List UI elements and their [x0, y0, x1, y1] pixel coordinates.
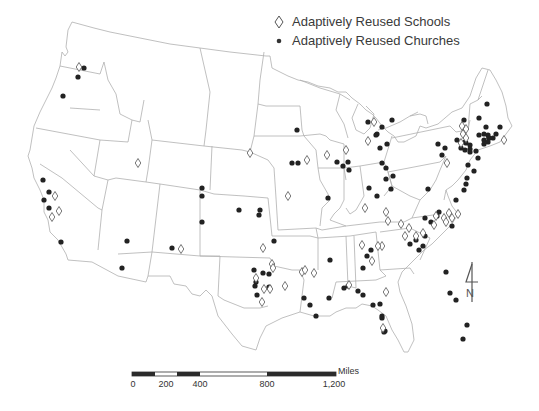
church-marker [379, 160, 384, 165]
church-marker [449, 223, 454, 228]
church-marker [422, 215, 427, 220]
church-marker [41, 197, 46, 202]
church-marker [383, 165, 388, 170]
filled-dot-icon [270, 36, 288, 46]
church-marker [463, 181, 468, 186]
church-marker [416, 247, 421, 252]
north-arrow: N [466, 262, 478, 302]
church-marker [119, 265, 124, 270]
church-marker [236, 207, 241, 212]
school-marker [260, 244, 266, 253]
church-marker [295, 160, 300, 165]
church-marker [460, 336, 465, 341]
school-marker [371, 118, 377, 127]
map-legend: Adaptively Reused Schools Adaptively Reu… [270, 12, 460, 50]
church-marker [340, 163, 345, 168]
church-marker [388, 186, 393, 191]
church-marker [260, 270, 265, 275]
church-marker [355, 288, 360, 293]
school-marker [304, 156, 310, 165]
legend-item-churches: Adaptively Reused Churches [270, 31, 460, 50]
school-marker [49, 213, 55, 222]
school-marker [359, 241, 365, 250]
church-marker [461, 187, 466, 192]
church-marker [334, 159, 339, 164]
church-marker [384, 141, 389, 146]
church-marker [251, 267, 256, 272]
church-marker [327, 257, 332, 262]
church-marker [425, 186, 430, 191]
church-marker [341, 285, 346, 290]
school-marker [406, 224, 412, 233]
school-marker [282, 282, 288, 291]
church-marker [493, 131, 498, 136]
church-marker [377, 145, 382, 150]
school-marker [52, 192, 58, 201]
school-marker [285, 192, 291, 201]
church-marker [435, 141, 440, 146]
church-markers [40, 65, 502, 341]
legend-item-schools: Adaptively Reused Schools [270, 12, 460, 31]
church-marker [345, 159, 350, 164]
church-marker [379, 124, 384, 129]
church-marker [313, 313, 318, 318]
church-marker [476, 115, 481, 120]
church-marker [368, 247, 373, 252]
church-marker [325, 195, 330, 200]
church-marker [390, 173, 395, 178]
church-marker [256, 212, 261, 217]
school-marker [385, 217, 391, 226]
scale-tick-label: 800 [259, 379, 274, 389]
church-marker [467, 146, 472, 151]
church-marker [199, 185, 204, 190]
church-marker [442, 145, 447, 150]
church-marker [169, 245, 174, 250]
church-marker [483, 124, 488, 129]
school-marker [178, 245, 184, 254]
church-marker [360, 292, 365, 297]
state-borders [28, 22, 512, 352]
legend-label-schools: Adaptively Reused Schools [292, 14, 450, 29]
church-marker [199, 219, 204, 224]
church-marker [497, 124, 502, 129]
church-marker [366, 185, 371, 190]
school-marker [369, 257, 375, 266]
church-marker [453, 297, 458, 302]
church-marker [360, 265, 365, 270]
church-marker [75, 74, 80, 79]
church-marker [289, 160, 294, 165]
church-marker [462, 147, 467, 152]
church-marker [346, 167, 351, 172]
church-marker [46, 205, 51, 210]
school-marker [362, 204, 368, 213]
church-marker [476, 132, 481, 137]
school-marker [247, 149, 253, 158]
church-marker [266, 271, 271, 276]
church-marker [301, 295, 306, 300]
school-marker [444, 159, 450, 168]
church-marker [377, 301, 382, 306]
church-marker [364, 253, 369, 258]
church-marker [484, 101, 489, 106]
school-marker [324, 151, 330, 160]
school-marker [135, 159, 141, 168]
church-marker [383, 176, 388, 181]
church-marker [379, 315, 384, 320]
scale-tick-label: 0 [130, 379, 135, 389]
church-marker [486, 135, 491, 140]
church-marker [365, 119, 370, 124]
school-marker [261, 285, 267, 294]
church-marker [389, 117, 394, 122]
church-marker [254, 292, 259, 297]
school-marker [365, 137, 371, 146]
school-marker [311, 269, 317, 278]
church-marker [81, 65, 86, 70]
church-marker [307, 302, 312, 307]
scale-unit-label: Miles [338, 366, 359, 376]
school-marker [398, 220, 404, 229]
church-marker [464, 322, 469, 327]
church-marker [40, 177, 45, 182]
school-marker [501, 136, 507, 145]
north-label: N [466, 287, 474, 299]
church-marker [453, 197, 458, 202]
